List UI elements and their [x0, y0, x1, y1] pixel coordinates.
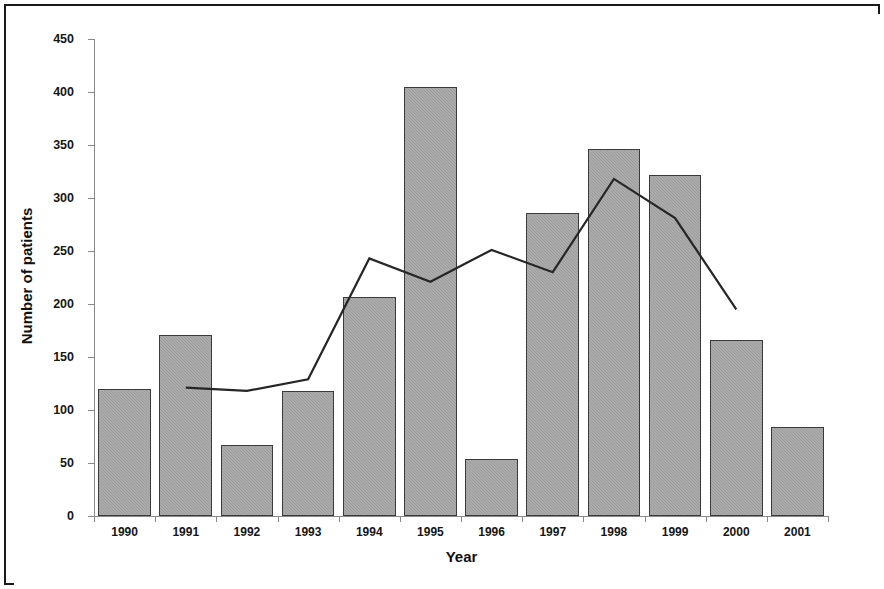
x-tick-label: 1990 [94, 526, 155, 538]
x-tick-label: 1996 [461, 526, 522, 538]
y-tick-label: 50 [28, 457, 74, 470]
x-tick-mark [278, 516, 279, 522]
x-tick-mark [155, 516, 156, 522]
y-tick-label: 150 [28, 351, 74, 364]
x-tick-mark [216, 516, 217, 522]
x-tick-mark [339, 516, 340, 522]
x-tick-label: 2000 [706, 526, 767, 538]
plot-area [94, 39, 828, 516]
y-tick-label: 200 [28, 298, 74, 311]
x-tick-label: 1995 [400, 526, 461, 538]
x-tick-mark [400, 516, 401, 522]
trend-line-path [186, 179, 737, 391]
y-tick-label: 250 [28, 245, 74, 258]
x-tick-label: 1998 [583, 526, 644, 538]
x-tick-mark [767, 516, 768, 522]
x-tick-mark [828, 516, 829, 522]
x-tick-mark [461, 516, 462, 522]
figure-border: Number of patients Year 0501001502002503… [4, 4, 880, 585]
x-axis-title: Year [94, 548, 829, 565]
x-tick-mark [94, 516, 95, 522]
x-tick-label: 1994 [339, 526, 400, 538]
y-tick-label: 100 [28, 404, 74, 417]
x-tick-label: 1991 [155, 526, 216, 538]
line-series [94, 39, 828, 516]
y-tick-label: 0 [28, 510, 74, 523]
x-tick-label: 2001 [767, 526, 828, 538]
y-tick-label: 450 [28, 33, 74, 46]
x-tick-mark [645, 516, 646, 522]
x-tick-label: 1999 [645, 526, 706, 538]
y-tick-label: 400 [28, 86, 74, 99]
y-tick-label: 300 [28, 192, 74, 205]
figure-container: Number of patients Year 0501001502002503… [0, 0, 884, 589]
x-tick-label: 1993 [278, 526, 339, 538]
y-tick-label: 350 [28, 139, 74, 152]
x-tick-mark [522, 516, 523, 522]
x-tick-label: 1992 [216, 526, 277, 538]
x-tick-mark [583, 516, 584, 522]
y-axis-title: Number of patients [18, 208, 35, 345]
x-tick-mark [706, 516, 707, 522]
x-tick-label: 1997 [522, 526, 583, 538]
